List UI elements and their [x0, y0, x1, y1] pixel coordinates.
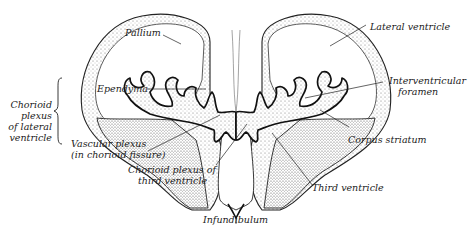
- label-vascular-plexus-1: Vascular plexus: [71, 138, 146, 149]
- forebrain-diagram: [0, 0, 471, 230]
- brace: [54, 78, 62, 144]
- label-chorioid-lateral-2: plexus: [4, 110, 52, 121]
- label-chorioid-lateral-4: ventricle: [4, 132, 52, 143]
- label-chorioid-third-2: third ventricle: [138, 175, 207, 186]
- label-chorioid-lateral-3: of lateral: [4, 121, 52, 132]
- label-pallium: Pallium: [125, 27, 161, 38]
- third-ventricle: [218, 130, 253, 210]
- label-interventricular-1: Interventricular: [389, 75, 466, 86]
- label-chorioid-third-1: Chorioid plexus of: [128, 164, 216, 175]
- anatomy-figure: Pallium Lateral ventricle Ependyma Inter…: [0, 0, 471, 230]
- midline-septum: [232, 30, 240, 112]
- label-chorioid-lateral-1: Chorioid: [4, 99, 52, 110]
- label-infundibulum: Infundibulum: [203, 214, 268, 225]
- label-lateral-ventricle: Lateral ventricle: [370, 21, 450, 32]
- label-interventricular-2: foramen: [398, 86, 438, 97]
- label-third-ventricle: Third ventricle: [312, 182, 384, 193]
- label-vascular-plexus-2: (in chorioid fissure): [71, 149, 166, 160]
- label-ependyma: Ependyma: [97, 83, 148, 94]
- label-corpus-striatum: Corpus striatum: [348, 134, 427, 145]
